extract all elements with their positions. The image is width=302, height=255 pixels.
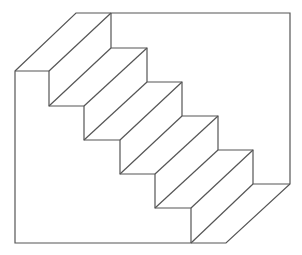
back-step-profile (111, 13, 290, 184)
depth-edge (49, 48, 111, 106)
front-step-profile (15, 71, 191, 243)
depth-edge (191, 150, 253, 208)
outer-outline (15, 13, 290, 243)
depth-edge (120, 116, 182, 174)
depth-edge (155, 116, 218, 174)
depth-edge (84, 82, 147, 140)
depth-edge (155, 150, 218, 208)
depth-edge (120, 82, 182, 140)
depth-edge (84, 48, 147, 106)
depth-edge (49, 13, 111, 71)
depth-edge (191, 184, 253, 243)
staircase-drawing (0, 0, 302, 255)
